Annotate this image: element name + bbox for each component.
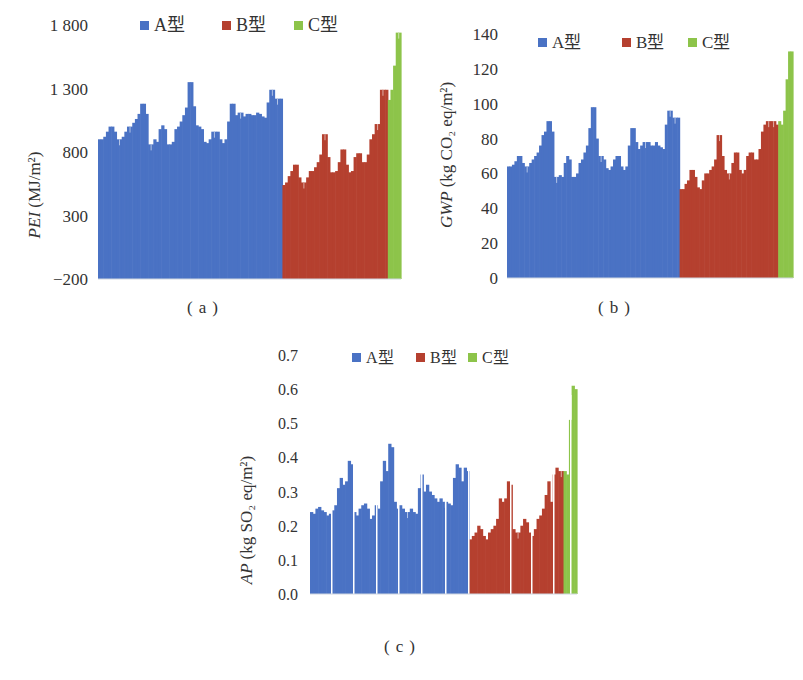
y-tick-label: 0.2 — [278, 518, 298, 535]
chart-b-svg: 020406080100120140GWP (kg CO₂ eq/m²)A型B型… — [410, 0, 803, 330]
legend-label-a: A型 — [552, 33, 581, 52]
group-gap — [531, 395, 533, 594]
y-tick-label: 120 — [473, 60, 499, 79]
group-gap — [376, 395, 378, 594]
y-axis-label: PEI (MJ/m²) — [25, 152, 44, 240]
caption-b: (b) — [598, 298, 636, 318]
series-b — [469, 468, 564, 594]
chart-a-svg: −2003008001 3001 800PEI (MJ/m²)A型B型C型 — [0, 0, 410, 330]
caption-c: (c) — [384, 637, 421, 657]
legend-swatch-b — [622, 38, 631, 47]
group-gap — [353, 395, 355, 594]
group-gap — [331, 395, 333, 594]
group-gap — [468, 395, 470, 594]
legend: A型B型C型 — [140, 15, 338, 35]
group-gap — [398, 395, 400, 594]
y-tick-label: 100 — [473, 95, 499, 114]
y-axis-label: GWP (kg CO₂ eq/m²) — [437, 82, 456, 228]
caption-a: (a) — [187, 298, 224, 318]
bar — [574, 389, 577, 594]
group-gap — [553, 395, 555, 594]
series-a — [98, 82, 283, 279]
legend: A型B型C型 — [538, 33, 730, 52]
legend-label-a: A型 — [366, 349, 394, 366]
chart-a-pei: −2003008001 3001 800PEI (MJ/m²)A型B型C型 — [0, 0, 410, 330]
group-gap — [421, 395, 423, 594]
legend-swatch-c — [294, 21, 303, 30]
legend-label-c: C型 — [482, 349, 509, 366]
legend-label-a: A型 — [154, 15, 185, 35]
legend-label-c: C型 — [308, 15, 338, 35]
legend-swatch-b — [416, 353, 425, 362]
legend-label-c: C型 — [702, 33, 730, 52]
series-b — [680, 121, 779, 278]
y-tick-label: 0.7 — [278, 347, 298, 364]
y-tick-label: 1 800 — [50, 16, 88, 35]
chart-c-ap: 0.00.10.20.30.40.50.60.7AP (kg SO₂ eq/m²… — [210, 330, 610, 620]
y-tick-label: 0 — [490, 269, 499, 288]
y-tick-label: 1 300 — [50, 80, 88, 99]
legend-swatch-c — [688, 38, 697, 47]
series-b — [282, 90, 388, 279]
y-tick-label: 0.4 — [278, 449, 298, 466]
y-tick-label: 0.0 — [278, 586, 298, 603]
legend-label-b: B型 — [430, 349, 457, 366]
group-gap — [570, 395, 572, 594]
series-c — [388, 33, 402, 279]
bar — [398, 33, 401, 279]
y-tick-label: 140 — [473, 25, 499, 44]
y-axis-label: AP (kg SO₂ eq/m²) — [237, 456, 256, 585]
legend-swatch-b — [222, 21, 231, 30]
y-tick-label: 40 — [481, 199, 498, 218]
y-tick-label: 0.5 — [278, 415, 298, 432]
y-tick-label: 60 — [481, 164, 498, 183]
legend-swatch-a — [538, 38, 547, 47]
y-tick-label: 0.1 — [278, 552, 298, 569]
legend-swatch-a — [140, 21, 149, 30]
series-c — [778, 51, 793, 278]
y-tick-label: 800 — [63, 143, 89, 162]
bar — [791, 51, 794, 278]
group-gap — [445, 395, 447, 594]
group-gap — [510, 395, 512, 594]
y-tick-label: 80 — [481, 130, 498, 149]
y-tick-label: 300 — [63, 207, 89, 226]
chart-c-svg: 0.00.10.20.30.40.50.60.7AP (kg SO₂ eq/m²… — [210, 330, 610, 620]
legend-label-b: B型 — [636, 33, 664, 52]
y-tick-label: 20 — [481, 234, 498, 253]
y-tick-label: 0.6 — [278, 381, 298, 398]
legend-swatch-c — [468, 353, 477, 362]
legend-swatch-a — [352, 353, 361, 362]
chart-b-gwp: 020406080100120140GWP (kg CO₂ eq/m²)A型B型… — [410, 0, 803, 330]
legend: A型B型C型 — [352, 349, 509, 366]
y-tick-label: −200 — [53, 270, 88, 289]
series-a — [507, 107, 680, 278]
legend-label-b: B型 — [236, 15, 266, 35]
y-tick-label: 0.3 — [278, 484, 298, 501]
